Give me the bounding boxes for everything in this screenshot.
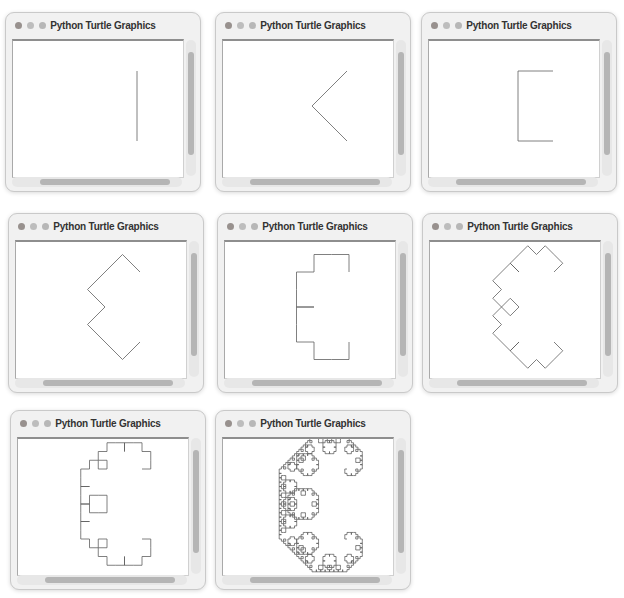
traffic-lights xyxy=(431,13,462,37)
turtle-window-3: Python Turtle Graphics xyxy=(421,12,617,192)
turtle-window-8: Python Turtle Graphics xyxy=(215,410,411,590)
titlebar[interactable]: Python Turtle Graphics xyxy=(6,13,200,37)
traffic-lights xyxy=(15,13,46,37)
titlebar[interactable]: Python Turtle Graphics xyxy=(9,214,203,238)
turtle-window-1: Python Turtle Graphics xyxy=(5,12,201,192)
vertical-scrollbar-thumb[interactable] xyxy=(604,52,610,155)
traffic-lights xyxy=(225,13,256,37)
zoom-button-icon[interactable] xyxy=(251,223,258,230)
window-title: Python Turtle Graphics xyxy=(260,418,365,429)
vertical-scrollbar-thumb[interactable] xyxy=(191,253,197,356)
close-button-icon[interactable] xyxy=(15,22,22,29)
window-title: Python Turtle Graphics xyxy=(260,20,365,31)
horizontal-scrollbar[interactable] xyxy=(12,177,182,187)
turtle-canvas xyxy=(222,437,394,576)
vertical-scrollbar[interactable] xyxy=(396,438,406,574)
horizontal-scrollbar[interactable] xyxy=(17,575,187,585)
zoom-button-icon[interactable] xyxy=(249,420,256,427)
horizontal-scrollbar-thumb[interactable] xyxy=(252,380,382,386)
titlebar[interactable]: Python Turtle Graphics xyxy=(423,214,617,238)
minimize-button-icon[interactable] xyxy=(237,22,244,29)
horizontal-scrollbar-thumb[interactable] xyxy=(250,179,380,185)
close-button-icon[interactable] xyxy=(432,223,439,230)
zoom-button-icon[interactable] xyxy=(455,22,462,29)
levy-curve-drawing xyxy=(18,439,188,575)
vertical-scrollbar[interactable] xyxy=(189,241,199,377)
turtle-window-5: Python Turtle Graphics xyxy=(217,213,413,393)
titlebar[interactable]: Python Turtle Graphics xyxy=(422,13,616,37)
vertical-scrollbar-thumb[interactable] xyxy=(398,450,404,553)
minimize-button-icon[interactable] xyxy=(444,223,451,230)
zoom-button-icon[interactable] xyxy=(249,22,256,29)
levy-curve-drawing xyxy=(223,41,393,177)
zoom-button-icon[interactable] xyxy=(39,22,46,29)
close-button-icon[interactable] xyxy=(227,223,234,230)
vertical-scrollbar[interactable] xyxy=(191,438,201,574)
turtle-canvas xyxy=(12,39,184,178)
turtle-canvas xyxy=(222,39,394,178)
turtle-window-6: Python Turtle Graphics xyxy=(422,213,618,393)
horizontal-scrollbar-thumb[interactable] xyxy=(250,577,380,583)
vertical-scrollbar-thumb[interactable] xyxy=(188,52,194,155)
titlebar[interactable]: Python Turtle Graphics xyxy=(218,214,412,238)
vertical-scrollbar-thumb[interactable] xyxy=(400,253,406,356)
levy-curve-drawing xyxy=(16,242,186,378)
minimize-button-icon[interactable] xyxy=(443,22,450,29)
traffic-lights xyxy=(225,411,256,435)
close-button-icon[interactable] xyxy=(18,223,25,230)
turtle-window-4: Python Turtle Graphics xyxy=(8,213,204,393)
horizontal-scrollbar-thumb[interactable] xyxy=(45,577,175,583)
vertical-scrollbar[interactable] xyxy=(602,40,612,176)
window-title: Python Turtle Graphics xyxy=(50,20,155,31)
levy-curve-drawing xyxy=(430,242,600,378)
vertical-scrollbar[interactable] xyxy=(396,40,406,176)
close-button-icon[interactable] xyxy=(431,22,438,29)
levy-curve-drawing xyxy=(13,41,183,177)
horizontal-scrollbar[interactable] xyxy=(222,177,392,187)
traffic-lights xyxy=(18,214,49,238)
turtle-canvas xyxy=(15,240,187,379)
traffic-lights xyxy=(227,214,258,238)
traffic-lights xyxy=(432,214,463,238)
horizontal-scrollbar[interactable] xyxy=(429,378,599,388)
horizontal-scrollbar[interactable] xyxy=(15,378,185,388)
turtle-canvas xyxy=(429,240,601,379)
vertical-scrollbar-thumb[interactable] xyxy=(398,52,404,155)
minimize-button-icon[interactable] xyxy=(239,223,246,230)
levy-curve-drawing xyxy=(429,41,599,177)
minimize-button-icon[interactable] xyxy=(30,223,37,230)
window-title: Python Turtle Graphics xyxy=(53,221,158,232)
horizontal-scrollbar[interactable] xyxy=(428,177,598,187)
turtle-window-7: Python Turtle Graphics xyxy=(10,410,206,590)
vertical-scrollbar[interactable] xyxy=(398,241,408,377)
vertical-scrollbar[interactable] xyxy=(603,241,613,377)
levy-curve-drawing xyxy=(225,242,395,378)
vertical-scrollbar-thumb[interactable] xyxy=(193,450,199,553)
horizontal-scrollbar[interactable] xyxy=(224,378,394,388)
horizontal-scrollbar[interactable] xyxy=(222,575,392,585)
titlebar[interactable]: Python Turtle Graphics xyxy=(216,411,410,435)
horizontal-scrollbar-thumb[interactable] xyxy=(456,179,586,185)
horizontal-scrollbar-thumb[interactable] xyxy=(40,179,170,185)
zoom-button-icon[interactable] xyxy=(456,223,463,230)
zoom-button-icon[interactable] xyxy=(42,223,49,230)
close-button-icon[interactable] xyxy=(20,420,27,427)
window-title: Python Turtle Graphics xyxy=(262,221,367,232)
minimize-button-icon[interactable] xyxy=(237,420,244,427)
vertical-scrollbar[interactable] xyxy=(186,40,196,176)
window-title: Python Turtle Graphics xyxy=(467,221,572,232)
titlebar[interactable]: Python Turtle Graphics xyxy=(11,411,205,435)
close-button-icon[interactable] xyxy=(225,22,232,29)
turtle-canvas xyxy=(224,240,396,379)
close-button-icon[interactable] xyxy=(225,420,232,427)
turtle-canvas xyxy=(428,39,600,178)
titlebar[interactable]: Python Turtle Graphics xyxy=(216,13,410,37)
zoom-button-icon[interactable] xyxy=(44,420,51,427)
minimize-button-icon[interactable] xyxy=(27,22,34,29)
turtle-canvas xyxy=(17,437,189,576)
minimize-button-icon[interactable] xyxy=(32,420,39,427)
vertical-scrollbar-thumb[interactable] xyxy=(605,253,611,356)
desktop: { "app": { "window_title": "Python Turtl… xyxy=(0,0,624,598)
horizontal-scrollbar-thumb[interactable] xyxy=(43,380,173,386)
horizontal-scrollbar-thumb[interactable] xyxy=(457,380,587,386)
